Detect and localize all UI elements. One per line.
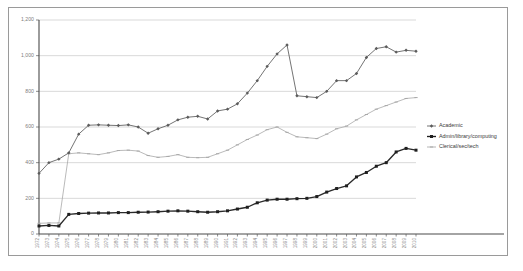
x-axis-tick-label: 1992	[233, 238, 238, 249]
y-axis-tick-label: 600	[25, 123, 34, 129]
x-axis-tick-label: 2005	[362, 238, 367, 249]
x-axis-tick-label: 1994	[253, 238, 258, 249]
x-axis-tick-label: 2009	[402, 238, 407, 249]
x-axis-tick-label: 1993	[243, 238, 248, 249]
x-axis-tick-label: 1991	[224, 238, 229, 249]
y-axis-tick-label: 200	[25, 195, 34, 201]
x-axis-tick-label: 1981	[124, 238, 129, 249]
x-axis-tick-label: 1995	[263, 238, 268, 249]
series-academic	[37, 43, 417, 175]
x-axis-tick-label: 1983	[144, 238, 149, 249]
chart-legend: AcademicAdmin/library/computingClerical/…	[427, 122, 497, 149]
x-axis-tick-label: 1977	[85, 238, 90, 249]
y-axis-tick-label: 1,200	[21, 16, 34, 22]
legend-item: Clerical/sec/tech	[427, 143, 479, 149]
x-axis: 1972197319741975197619771978197919801981…	[35, 234, 504, 248]
legend-label: Admin/library/computing	[439, 133, 497, 139]
x-axis-tick-label: 2002	[333, 238, 338, 249]
x-axis-tick-label: 2010	[412, 238, 417, 249]
x-axis-tick-label: 1989	[204, 238, 209, 249]
series-admin	[38, 147, 418, 228]
x-axis-tick-label: 1982	[134, 238, 139, 249]
x-axis-tick-label: 1980	[114, 238, 119, 249]
y-axis-tick-label: 0	[31, 230, 34, 236]
legend-label: Clerical/sec/tech	[439, 143, 479, 149]
x-axis-tick-label: 1978	[95, 238, 100, 249]
y-axis-tick-label: 400	[25, 159, 34, 165]
x-axis-tick-label: 1974	[55, 238, 60, 249]
legend-label: Academic	[439, 122, 463, 128]
x-axis-tick-label: 1984	[154, 238, 159, 249]
y-axis: 02004006008001,0001,200	[21, 16, 39, 236]
x-axis-tick-label: 1996	[273, 238, 278, 249]
x-axis-tick-label: 2007	[382, 238, 387, 249]
legend-item: Admin/library/computing	[427, 133, 497, 139]
line-chart: 02004006008001,0001,200 1972197319741975…	[9, 8, 507, 255]
chart-frame: 02004006008001,0001,200 1972197319741975…	[8, 7, 508, 256]
x-axis-tick-label: 1986	[174, 238, 179, 249]
x-axis-tick-label: 1997	[283, 238, 288, 249]
x-axis-tick-label: 2000	[313, 238, 318, 249]
x-axis-tick-label: 2001	[323, 238, 328, 249]
x-axis-tick-label: 2006	[372, 238, 377, 249]
series-clerical	[37, 97, 417, 224]
x-axis-tick-label: 1988	[194, 238, 199, 249]
x-axis-tick-label: 1990	[214, 238, 219, 249]
x-axis-tick-label: 1975	[65, 238, 70, 249]
y-axis-tick-label: 1,000	[21, 52, 34, 58]
x-axis-tick-label: 1985	[164, 238, 169, 249]
x-axis-tick-label: 1987	[184, 238, 189, 249]
x-axis-tick-label: 1972	[35, 238, 40, 249]
x-axis-tick-label: 2003	[343, 238, 348, 249]
y-axis-tick-label: 800	[25, 88, 34, 94]
x-axis-tick-label: 1976	[75, 238, 80, 249]
x-axis-tick-label: 1998	[293, 238, 298, 249]
x-axis-tick-label: 2004	[352, 238, 357, 249]
legend-item: Academic	[427, 122, 463, 128]
x-axis-tick-label: 1999	[303, 238, 308, 249]
x-axis-tick-label: 1973	[45, 238, 50, 249]
x-axis-tick-label: 1979	[104, 238, 109, 249]
x-axis-tick-label: 2008	[392, 238, 397, 249]
